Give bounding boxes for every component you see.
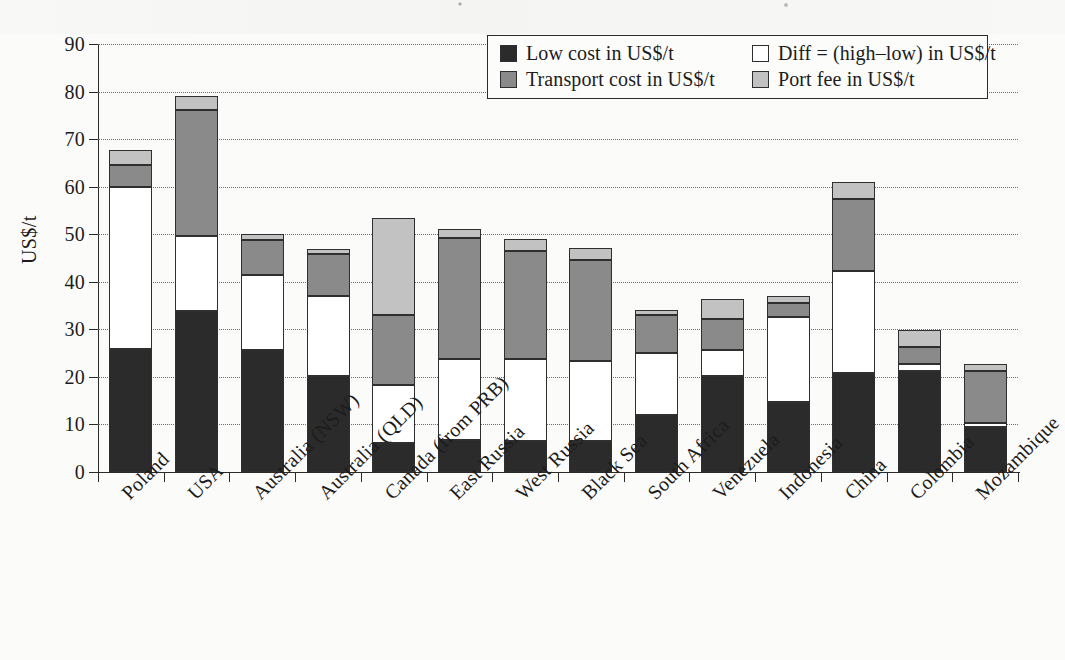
y-tick-label: 30 [64, 319, 85, 339]
gridline [98, 377, 1018, 378]
bar-segment [964, 423, 1007, 427]
filled-light-gray-square-icon [752, 71, 769, 88]
y-tick-mark [89, 424, 98, 425]
bar-segment [832, 271, 875, 373]
legend-label: Diff = (high–low) in US$/t [778, 43, 996, 64]
y-tick-label: 60 [64, 177, 85, 197]
gridline [98, 139, 1018, 140]
x-tick-mark [952, 472, 953, 482]
bar-segment [635, 353, 678, 415]
y-tick-mark [89, 92, 98, 93]
bar-segment [307, 249, 350, 255]
bar-segment [701, 319, 744, 350]
x-tick-mark [295, 472, 296, 482]
x-tick-mark [229, 472, 230, 482]
legend-entry: Low cost in US$/t [500, 43, 752, 64]
gridline [98, 187, 1018, 188]
y-tick-label: 90 [64, 34, 85, 54]
plot-area: 0102030405060708090 [98, 44, 1018, 472]
gridline [98, 424, 1018, 425]
legend-label: Port fee in US$/t [778, 69, 915, 90]
bar-segment [767, 317, 810, 402]
bar-segment [964, 371, 1007, 423]
bar-segment [109, 165, 152, 186]
bar-segment [569, 260, 612, 361]
y-tick-label: 50 [64, 224, 85, 244]
bar-segment [832, 182, 875, 199]
legend-entry: Diff = (high–low) in US$/t [752, 43, 996, 64]
legend-label: Low cost in US$/t [526, 43, 674, 64]
bar-segment [372, 218, 415, 315]
bar-segment [504, 251, 547, 358]
bar-segment [898, 347, 941, 364]
bar-segment [701, 299, 744, 318]
bar-segment [241, 234, 284, 240]
bar-segment [109, 349, 152, 472]
gridline [98, 282, 1018, 283]
empty-white-square-icon [752, 45, 769, 62]
bar-segment [175, 236, 218, 312]
y-tick-mark [89, 139, 98, 140]
y-tick-label: 70 [64, 129, 85, 149]
bar-segment [635, 310, 678, 315]
legend-entry: Transport cost in US$/t [500, 69, 752, 90]
x-tick-mark [558, 472, 559, 482]
y-tick-mark [89, 329, 98, 330]
bar-segment [569, 248, 612, 260]
bar-segment [372, 315, 415, 385]
gridline [98, 234, 1018, 235]
bar-stack [109, 150, 152, 472]
bar-stack [964, 364, 1007, 472]
bar-segment [109, 187, 152, 350]
filled-dark-square-icon [500, 45, 517, 62]
bar-segment [241, 350, 284, 472]
bar-segment [898, 330, 941, 347]
bar-segment [767, 303, 810, 317]
x-tick-mark [755, 472, 756, 482]
bar-segment [701, 350, 744, 376]
y-tick-label: 0 [75, 462, 85, 482]
y-tick-mark [89, 472, 98, 473]
x-tick-mark [1018, 472, 1019, 482]
y-tick-label: 20 [64, 367, 85, 387]
bar-segment [307, 254, 350, 296]
bar-segment [438, 238, 481, 359]
bar-stack [832, 182, 875, 472]
legend-label: Transport cost in US$/t [526, 69, 715, 90]
bar-segment [241, 240, 284, 274]
bar-segment [109, 150, 152, 166]
bar-segment [438, 229, 481, 237]
bar-segment [175, 110, 218, 236]
bar-stack [175, 96, 218, 472]
bar-segment [898, 364, 941, 372]
bar-stack [898, 330, 941, 472]
stacked-bar-chart-figure: US$/t 0102030405060708090 PolandUSAAustr… [0, 0, 1065, 660]
bar-stack [241, 234, 284, 472]
bar-segment [175, 311, 218, 472]
y-tick-mark [89, 44, 98, 45]
bar-segment [832, 199, 875, 271]
y-tick-mark [89, 377, 98, 378]
x-tick-mark [492, 472, 493, 482]
gridline [98, 329, 1018, 330]
y-tick-label: 40 [64, 272, 85, 292]
bar-segment [307, 296, 350, 376]
chart-legend: Low cost in US$/tDiff = (high–low) in US… [487, 35, 988, 99]
bar-segment [241, 275, 284, 351]
filled-mid-gray-square-icon [500, 71, 517, 88]
bar-segment [635, 315, 678, 353]
bar-segment [767, 296, 810, 303]
y-tick-mark [89, 234, 98, 235]
y-tick-label: 10 [64, 414, 85, 434]
y-tick-label: 80 [64, 82, 85, 102]
y-axis-title: US$/t [18, 215, 41, 264]
y-tick-mark [89, 282, 98, 283]
bar-segment [964, 364, 1007, 371]
y-tick-mark [89, 187, 98, 188]
bar-segment [504, 239, 547, 251]
bar-segment [175, 96, 218, 109]
x-tick-mark [98, 472, 99, 482]
legend-entry: Port fee in US$/t [752, 69, 996, 90]
bar-segment [832, 373, 875, 472]
